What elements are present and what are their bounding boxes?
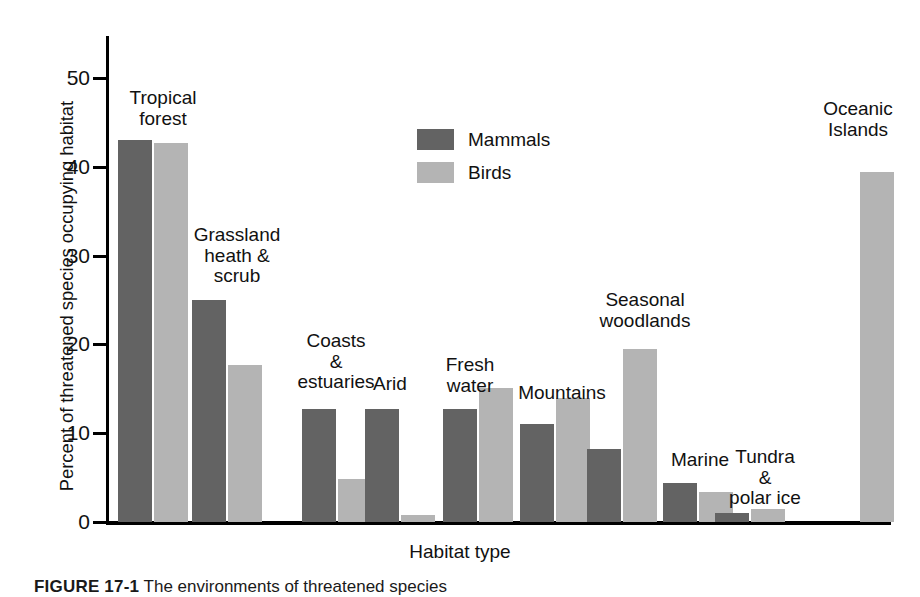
category-label: Tundra & polar ice <box>706 447 824 509</box>
bar <box>228 365 262 522</box>
bar <box>365 409 399 522</box>
bar <box>118 140 152 522</box>
x-axis-title: Habitat type <box>0 541 920 563</box>
legend-swatch-mammals <box>417 129 454 150</box>
figure-caption-text: The environments of threatened species <box>144 577 447 596</box>
bar <box>401 515 435 522</box>
bar <box>663 483 697 522</box>
bar <box>715 513 749 522</box>
legend-swatch-birds <box>417 162 454 183</box>
category-label: Tropical forest <box>99 88 227 129</box>
figure-caption: FIGURE 17-1 The environments of threaten… <box>34 577 447 597</box>
legend-item-birds: Birds <box>417 159 550 186</box>
bar <box>443 409 477 522</box>
figure-caption-number: FIGURE 17-1 <box>34 577 139 596</box>
bar <box>623 349 657 522</box>
bar <box>751 509 785 522</box>
bar <box>192 300 226 522</box>
bar <box>860 172 894 522</box>
category-label: Seasonal woodlands <box>560 290 730 331</box>
category-label: Grassland heath & scrub <box>172 225 302 287</box>
legend: Mammals Birds <box>417 126 550 192</box>
legend-label-birds: Birds <box>468 163 511 182</box>
legend-item-mammals: Mammals <box>417 126 550 153</box>
bar <box>587 449 621 522</box>
bar <box>154 143 188 522</box>
bar <box>479 388 513 522</box>
category-label: Mountains <box>492 383 632 404</box>
bar <box>520 424 554 522</box>
bar <box>556 398 590 522</box>
legend-label-mammals: Mammals <box>468 130 550 149</box>
category-label: Arid <box>355 374 425 395</box>
bar <box>302 409 336 522</box>
category-label: Oceanic Islands <box>790 99 920 140</box>
